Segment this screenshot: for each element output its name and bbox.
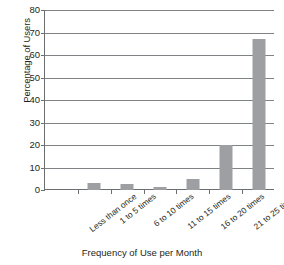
bar-slot: [242, 10, 275, 190]
y-tick-label: 60: [29, 50, 40, 60]
bar: [121, 184, 134, 190]
y-tick-label: 50: [29, 73, 40, 83]
y-tick-label: 80: [29, 5, 40, 15]
bar: [88, 183, 101, 190]
y-tick-label: 70: [29, 28, 40, 38]
bar-chart: Percentage of Users 80 70 60 50 40 30 20…: [0, 0, 284, 265]
bar-slot: [144, 10, 177, 190]
y-tick-label: 40: [29, 95, 40, 105]
bar-series: [45, 10, 274, 190]
y-axis-title: Percentage of Users: [21, 0, 32, 127]
bar: [252, 39, 265, 190]
y-tick-label: 30: [29, 118, 40, 128]
bar-slot: [176, 10, 209, 190]
x-axis-title: Frequency of Use per Month: [0, 247, 284, 258]
bar-slot: [45, 10, 78, 190]
bar-slot: [111, 10, 144, 190]
plot-area: 80 70 60 50 40 30 20 10 0: [44, 10, 274, 190]
x-axis-category-labels: Less than once1 to 5 times6 to 10 times1…: [44, 192, 274, 244]
bar-slot: [209, 10, 242, 190]
y-tick-label: 0: [35, 185, 40, 195]
y-tick-label: 10: [29, 163, 40, 173]
bar: [186, 179, 199, 190]
y-tick-label: 20: [29, 140, 40, 150]
bar: [219, 145, 232, 190]
bar-slot: [78, 10, 111, 190]
bar: [153, 187, 166, 190]
y-tickmark: [41, 190, 45, 191]
